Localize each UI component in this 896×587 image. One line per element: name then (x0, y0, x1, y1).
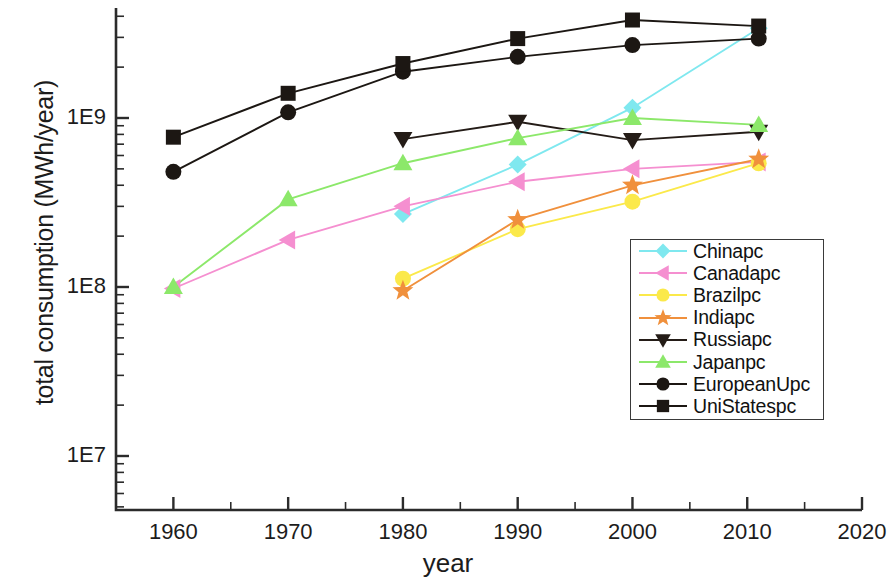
circle-icon (637, 373, 689, 395)
series-Russiapc (403, 122, 759, 140)
chart-container: total consumption (MWh/year) year 1E71E8… (0, 0, 896, 587)
circle-icon (637, 284, 689, 306)
x-axis-title: year (0, 548, 896, 579)
x-tick-label: 1990 (473, 519, 563, 545)
legend-item-label: EuropeanUpc (693, 373, 810, 396)
legend-item-japanpc[interactable]: Japanpc (631, 351, 823, 373)
left-triangle-icon (637, 262, 689, 284)
x-tick-label: 1980 (358, 519, 448, 545)
x-tick-label: 2010 (702, 519, 792, 545)
legend-item-label: Japanpc (693, 351, 765, 374)
y-tick-label: 1E8 (18, 273, 106, 299)
legend-item-brazilpc[interactable]: Brazilpc (631, 284, 823, 306)
legend-item-label: Chinapc (693, 240, 763, 263)
x-tick-label: 1970 (243, 519, 333, 545)
down-triangle-icon (637, 329, 689, 351)
legend-item-indiapc[interactable]: Indiapc (631, 307, 823, 329)
legend-item-label: Indiapc (693, 306, 754, 329)
x-tick-label: 2000 (587, 519, 677, 545)
legend-item-canadapc[interactable]: Canadapc (631, 262, 823, 284)
legend: ChinapcCanadapcBrazilpcIndiapcRussiapcJa… (630, 239, 824, 420)
legend-item-russiapc[interactable]: Russiapc (631, 329, 823, 351)
markers-UniStatespc (166, 13, 766, 145)
legend-item-chinapc[interactable]: Chinapc (631, 240, 823, 262)
star-icon (637, 307, 689, 329)
legend-item-unistatespc[interactable]: UniStatespc (631, 395, 823, 417)
legend-item-label: Canadapc (693, 262, 780, 285)
x-tick-label: 2020 (817, 519, 896, 545)
legend-item-label: UniStatespc (693, 395, 796, 418)
y-tick-label: 1E7 (18, 442, 106, 468)
legend-item-label: Russiapc (693, 328, 772, 351)
y-tick-label: 1E9 (18, 104, 106, 130)
legend-item-europeanupc[interactable]: EuropeanUpc (631, 373, 823, 395)
square-icon (637, 395, 689, 417)
up-triangle-icon (637, 351, 689, 373)
diamond-icon (637, 240, 689, 262)
legend-item-label: Brazilpc (693, 284, 761, 307)
series-EuropeanUpc (173, 39, 758, 172)
x-tick-label: 1960 (128, 519, 218, 545)
